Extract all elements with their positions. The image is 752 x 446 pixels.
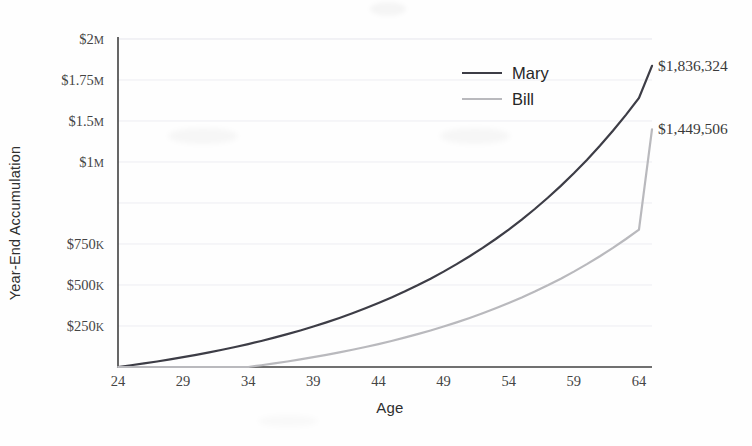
gridlines <box>118 39 652 326</box>
value-callout-bill: $1,449,506 <box>658 120 728 138</box>
x-tick-label: 44 <box>371 373 386 390</box>
x-tick-label: 59 <box>567 373 582 390</box>
legend-label: Mary <box>512 64 549 83</box>
y-tick-unit: M <box>94 116 104 128</box>
chart-page: $2M$1.75M$1.5M$1M$750K$500K$250K 2429343… <box>0 0 752 446</box>
chart-legend: MaryBill <box>462 60 549 112</box>
y-tick-unit: K <box>96 321 104 333</box>
y-tick-value: $250 <box>67 318 96 334</box>
y-tick-unit: K <box>96 239 104 251</box>
y-tick-value: $1 <box>79 154 94 170</box>
legend-label: Bill <box>512 90 534 109</box>
legend-item-bill: Bill <box>462 86 549 112</box>
series-line-bill <box>118 129 652 367</box>
y-tick-value: $2 <box>79 31 94 47</box>
y-axis-title-text: Year-End Accumulation <box>7 146 23 300</box>
x-tick-label: 34 <box>241 373 256 390</box>
x-tick-label: 39 <box>306 373 321 390</box>
y-tick-value: $1.5 <box>68 113 93 129</box>
legend-item-mary: Mary <box>462 60 549 86</box>
axis-lines <box>118 37 652 367</box>
y-tick-value: $1.75 <box>61 72 94 88</box>
value-callout-mary: $1,836,324 <box>658 57 728 75</box>
legend-swatch-bill <box>462 98 502 100</box>
x-tick-label: 54 <box>501 373 516 390</box>
series-lines <box>118 66 652 367</box>
y-tick-unit: M <box>94 75 104 87</box>
y-axis-title: Year-End Accumulation <box>0 0 30 446</box>
y-tick-value: $750 <box>67 236 96 252</box>
x-tick-label: 64 <box>632 373 647 390</box>
x-tick-label: 49 <box>436 373 451 390</box>
series-line-mary <box>118 66 652 367</box>
x-tick-label: 24 <box>111 373 126 390</box>
legend-swatch-mary <box>462 72 502 74</box>
x-tick-label: 29 <box>176 373 191 390</box>
y-tick-unit: K <box>96 280 104 292</box>
y-tick-unit: M <box>94 157 104 169</box>
x-axis-title: Age <box>330 399 450 416</box>
y-tick-unit: M <box>94 34 104 46</box>
y-tick-value: $500 <box>67 277 96 293</box>
